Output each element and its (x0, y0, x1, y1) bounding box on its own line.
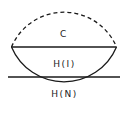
region-label-hn: H(N) (51, 89, 78, 99)
layer-diagram: C H(I) H(N) (0, 0, 129, 129)
region-label-c: C (60, 29, 68, 39)
region-label-hi: H(I) (53, 59, 75, 69)
